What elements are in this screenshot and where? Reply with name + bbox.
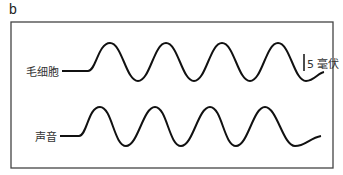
- hair-cell-waveform: [62, 43, 324, 81]
- sound-waveform: [60, 107, 321, 146]
- hair-cell-label: 毛细胞: [26, 63, 59, 79]
- waveform-diagram: [0, 0, 343, 175]
- frame-border: [11, 22, 333, 168]
- sound-label: 声音: [35, 128, 57, 144]
- scale-bar-label: 5 毫伏: [307, 55, 340, 71]
